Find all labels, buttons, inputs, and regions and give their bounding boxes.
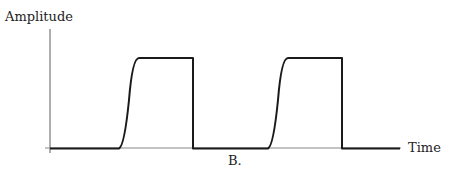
x-axis-label: Time [408, 140, 441, 155]
waveform-diagram: Amplitude Time B. [0, 0, 463, 175]
y-axis-label: Amplitude [4, 9, 73, 24]
pulse-signal [50, 58, 400, 149]
figure-caption: B. [228, 153, 242, 168]
